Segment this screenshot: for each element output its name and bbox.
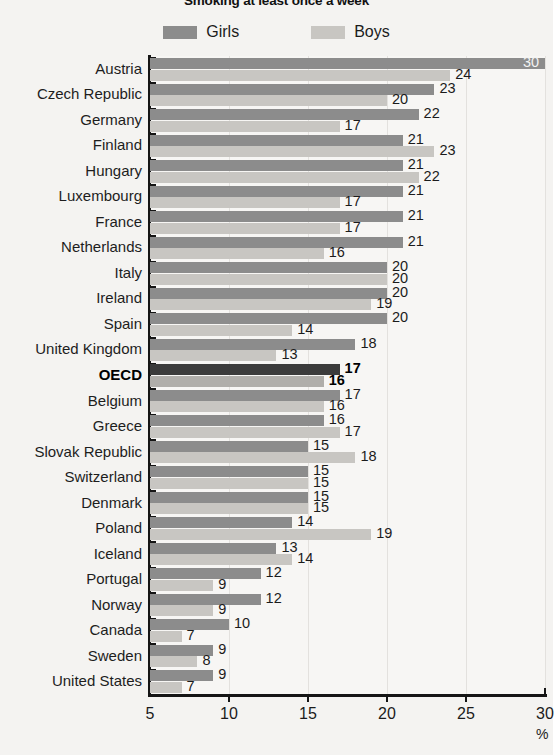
bar-value-label: 16 xyxy=(329,414,345,425)
bar-value-label: 16 xyxy=(329,247,345,258)
country-label: Ireland xyxy=(0,289,142,306)
bar-value-label: 9 xyxy=(218,604,226,615)
bar-girls xyxy=(150,186,403,197)
bar-value-label: 15 xyxy=(313,440,329,451)
country-label: Hungary xyxy=(0,162,142,179)
bar-value-label: 14 xyxy=(297,553,313,564)
bar-value-label: 17 xyxy=(345,196,361,207)
legend-swatch-girls xyxy=(163,26,197,39)
x-axis-tick xyxy=(307,695,309,702)
bar-boys xyxy=(150,299,371,310)
bar-value-label: 21 xyxy=(408,185,424,196)
bar-value-label: 20 xyxy=(392,287,408,298)
bar-boys xyxy=(150,503,308,514)
bar-value-label: 9 xyxy=(218,644,226,655)
bar-value-label: 20 xyxy=(392,94,408,105)
country-label: United States xyxy=(0,672,142,689)
legend-label-girls: Girls xyxy=(206,24,239,40)
country-label: Luxembourg xyxy=(0,187,142,204)
bar-girls xyxy=(150,313,387,324)
bar-value-label: 19 xyxy=(376,528,392,539)
bar-value-label: 12 xyxy=(266,567,282,578)
country-label: Iceland xyxy=(0,545,142,562)
bar-boys xyxy=(150,172,419,183)
x-axis-tick-label: 15 xyxy=(299,705,317,723)
bar-girls xyxy=(150,568,261,579)
chart-title: Smoking at least once a week xyxy=(0,0,553,8)
x-gridline xyxy=(545,56,546,695)
bar-girls xyxy=(150,109,419,120)
country-label: Finland xyxy=(0,136,142,153)
bar-value-label: 21 xyxy=(408,236,424,247)
x-axis-unit-label: % xyxy=(536,726,548,742)
bar-boys xyxy=(150,325,292,336)
bar-boys xyxy=(150,427,340,438)
bar-boys xyxy=(150,376,324,387)
country-label: Slovak Republic xyxy=(0,443,142,460)
x-axis-tick xyxy=(386,695,388,702)
bar-value-label: 22 xyxy=(424,108,440,119)
bar-boys xyxy=(150,580,213,591)
bar-value-label: 16 xyxy=(329,375,345,386)
legend-item-girls: Girls xyxy=(163,24,239,40)
x-gridline xyxy=(466,56,467,695)
country-label: Netherlands xyxy=(0,238,142,255)
country-label: Austria xyxy=(0,60,142,77)
bar-value-label: 21 xyxy=(408,210,424,221)
country-label: Czech Republic xyxy=(0,85,142,102)
x-axis-tick-label: 10 xyxy=(220,705,238,723)
country-label: Norway xyxy=(0,596,142,613)
country-label: Greece xyxy=(0,417,142,434)
bar-value-label: 10 xyxy=(234,618,250,629)
bar-value-label: 17 xyxy=(345,389,361,400)
x-axis-tick-label: 30 xyxy=(536,705,554,723)
bar-girls xyxy=(150,492,308,503)
country-label: United Kingdom xyxy=(0,340,142,357)
bar-value-label: 14 xyxy=(297,324,313,335)
bar-girls xyxy=(150,390,340,401)
bar-girls xyxy=(150,288,387,299)
bar-value-label: 17 xyxy=(345,363,361,374)
bar-boys xyxy=(150,146,434,157)
bar-value-label: 7 xyxy=(187,681,195,692)
country-label: Poland xyxy=(0,519,142,536)
legend-swatch-boys xyxy=(311,26,345,39)
bar-boys xyxy=(150,478,308,489)
country-label: Switzerland xyxy=(0,468,142,485)
bar-boys xyxy=(150,70,450,81)
bar-girls xyxy=(150,160,403,171)
x-axis-tick-label: 25 xyxy=(457,705,475,723)
bar-boys xyxy=(150,682,182,693)
country-label: Portugal xyxy=(0,570,142,587)
bar-value-label: 9 xyxy=(218,579,226,590)
bar-girls xyxy=(150,339,355,350)
country-label: Denmark xyxy=(0,494,142,511)
bar-value-label: 23 xyxy=(439,83,455,94)
bar-boys xyxy=(150,223,340,234)
bar-value-label: 17 xyxy=(345,426,361,437)
x-axis-line xyxy=(148,694,547,697)
bar-girls xyxy=(150,670,213,681)
bar-value-label: 18 xyxy=(360,338,376,349)
bar-girls xyxy=(150,237,403,248)
bar-boys xyxy=(150,197,340,208)
x-axis-tick xyxy=(465,695,467,702)
bar-girls xyxy=(150,364,340,375)
bar-value-label: 17 xyxy=(345,222,361,233)
bar-value-label: 22 xyxy=(424,171,440,182)
bar-value-label: 23 xyxy=(439,145,455,156)
bar-value-label: 13 xyxy=(281,349,297,360)
bar-value-label: 7 xyxy=(187,630,195,641)
bar-boys xyxy=(150,631,182,642)
bar-girls xyxy=(150,415,324,426)
bar-value-label: 17 xyxy=(345,120,361,131)
x-axis-tick xyxy=(228,695,230,702)
bar-value-label: 16 xyxy=(329,400,345,411)
bar-girls xyxy=(150,58,545,69)
bar-girls xyxy=(150,441,308,452)
bar-value-label: 9 xyxy=(218,669,226,680)
bar-boys xyxy=(150,248,324,259)
bar-value-label: 30 xyxy=(523,57,539,68)
bar-girls xyxy=(150,517,292,528)
